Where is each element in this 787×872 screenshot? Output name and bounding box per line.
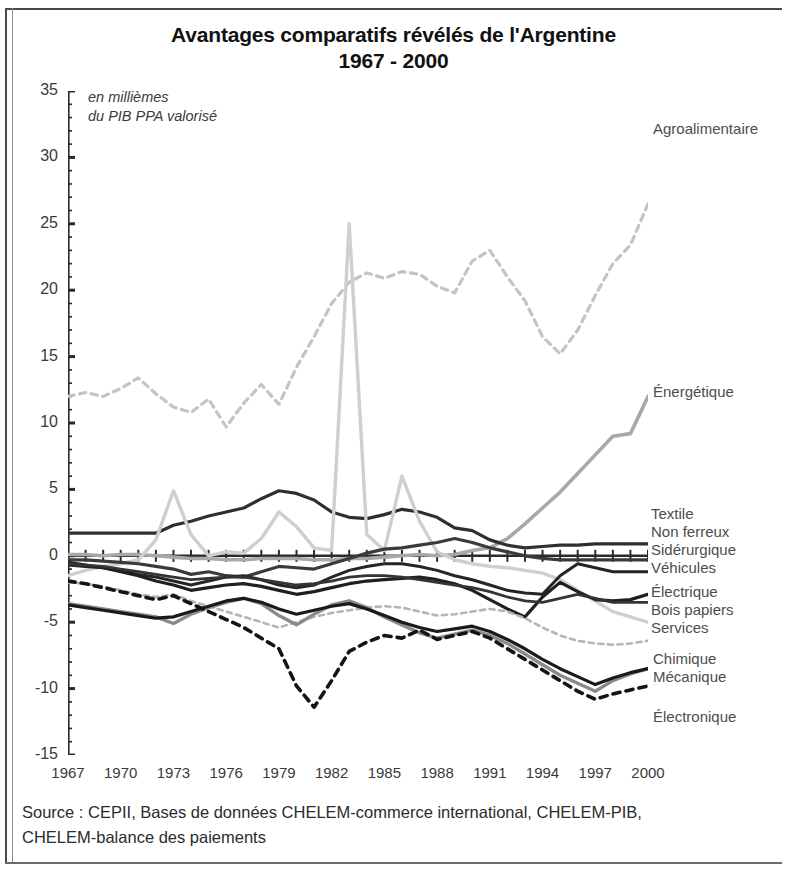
figure-chart-argentina: Avantages comparatifs révélés de l'Argen… [0,0,787,872]
chart-title-line1: Avantages comparatifs révélés de l'Argen… [171,23,616,46]
y-axis-tick-label: 10 [12,413,58,431]
y-axis-tick-label: 15 [12,347,58,365]
series-label--lectrique: Électrique [651,583,718,600]
x-axis-tick-label: 1994 [513,764,573,781]
plot-area [68,91,648,755]
series-label-sid-rurgique: Sidérurgique [651,541,736,558]
series-line-non-ferreux [68,224,648,622]
y-axis-tick-label: 20 [12,280,58,298]
y-axis-tick-label: 35 [12,81,58,99]
source-note: Source : CEPII, Bases de données CHELEM-… [22,800,752,850]
y-axis-tick-label: 25 [12,214,58,232]
series-label-bois-papiers: Bois papiers [651,601,734,618]
frame-top-border [5,8,782,10]
x-axis-tick-label: 1988 [407,764,467,781]
x-axis-tick-label: 1991 [460,764,520,781]
chart-title: Avantages comparatifs révélés de l'Argen… [0,22,787,74]
series-label-services: Services [651,619,709,636]
x-axis-tick-label: 2000 [618,764,678,781]
series-line-chimique [68,598,648,691]
series-line-services [68,582,648,644]
x-axis-tick-label: 1982 [302,764,362,781]
y-axis-tick-label: -15 [12,745,58,763]
y-axis-tick-label: 0 [12,546,58,564]
series-label--lectronique: Électronique [653,708,736,725]
frame-bottom-border [5,862,782,864]
x-axis-tick-label: 1979 [249,764,309,781]
chart-canvas [68,91,648,755]
x-axis-tick-label: 1970 [91,764,151,781]
series-label-v-hicules: Véhicules [651,559,716,576]
series-label-non-ferreux: Non ferreux [651,523,729,540]
series-label--nerg-tique: Énergétique [653,383,734,400]
source-note-line2: CHELEM-balance des paiements [22,825,752,850]
x-axis-tick-label: 1973 [143,764,203,781]
y-axis-tick-label: 5 [12,479,58,497]
y-axis-tick-label: -10 [12,679,58,697]
frame-left-border [5,8,7,864]
series-label-agroalimentaire: Agroalimentaire [653,120,758,137]
chart-title-line2: 1967 - 2000 [0,48,787,74]
series-label-chimique: Chimique [653,650,716,667]
series-line--lectronique [68,581,648,707]
source-note-line1: Source : CEPII, Bases de données CHELEM-… [22,800,752,825]
x-axis-tick-label: 1967 [38,764,98,781]
frame-left-inner-border [12,8,13,864]
series-label-m-canique: Mécanique [653,668,726,685]
x-axis-tick-label: 1997 [565,764,625,781]
x-axis-tick-label: 1985 [354,764,414,781]
y-axis-tick-label: 30 [12,147,58,165]
series-line-m-canique [68,598,648,684]
series-label-textile: Textile [651,505,694,522]
x-axis-tick-label: 1976 [196,764,256,781]
y-axis-tick-label: -5 [12,612,58,630]
series-line--nerg-tique [68,396,648,559]
